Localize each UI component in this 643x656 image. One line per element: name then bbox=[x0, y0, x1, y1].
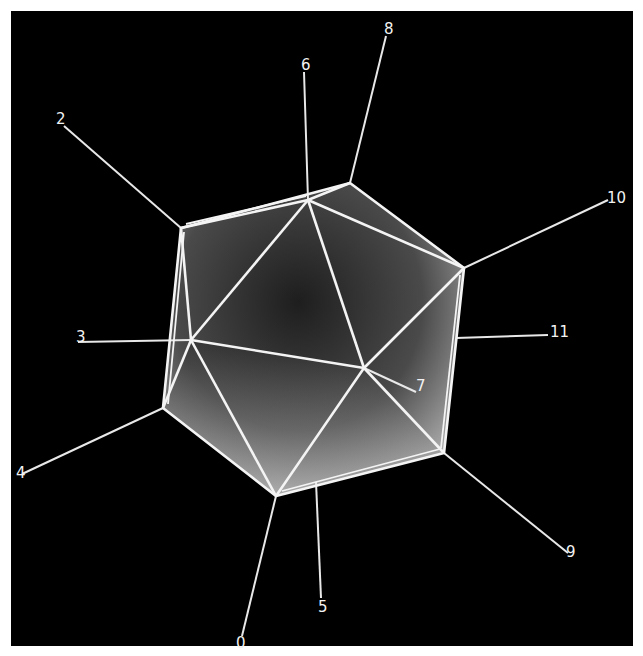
leader-0 bbox=[242, 496, 276, 636]
leader-6 bbox=[304, 72, 308, 200]
leader-5 bbox=[316, 482, 321, 598]
vertex-label-2: 2 bbox=[56, 110, 66, 128]
vertex-label-10: 10 bbox=[607, 189, 626, 207]
leader-10 bbox=[464, 200, 608, 268]
vertex-label-4: 4 bbox=[16, 464, 26, 482]
leader-11 bbox=[456, 335, 548, 338]
vertex-label-9: 9 bbox=[566, 543, 576, 561]
leader-8 bbox=[350, 36, 386, 183]
leader-2 bbox=[64, 126, 181, 228]
vertex-label-6: 6 bbox=[301, 56, 311, 74]
leader-4 bbox=[22, 408, 163, 474]
vertex-label-8: 8 bbox=[384, 20, 394, 38]
vertex-label-0: 0 bbox=[236, 634, 246, 652]
vertex-label-11: 11 bbox=[550, 323, 569, 341]
leader-9 bbox=[444, 453, 568, 553]
vertex-label-5: 5 bbox=[318, 598, 328, 616]
vertex-label-3: 3 bbox=[76, 328, 86, 346]
icosahedron-diagram: 0 2 3 4 5 6 7 8 9 10 11 bbox=[0, 0, 643, 656]
vertex-label-7: 7 bbox=[416, 377, 426, 395]
